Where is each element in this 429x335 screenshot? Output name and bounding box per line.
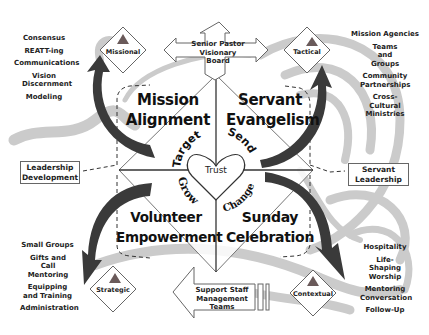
svg-text:Target: Target — [170, 128, 203, 169]
svg-text:Grow: Grow — [175, 176, 201, 208]
svg-text:Send: Send — [226, 125, 259, 155]
list-bottom-left: Small Groups Gifts and Call Mentoring Eq… — [20, 241, 75, 317]
list-bottom-right: Hospitality Life-Shaping Worship Mentori… — [355, 243, 415, 319]
leadership-diagram: Senior Pastor Visionary Board Support St… — [0, 0, 429, 335]
list-top-left: Consensus REATT-ing Communications Visio… — [14, 34, 74, 105]
verb-send: Send — [226, 125, 259, 155]
verb-target: Target — [170, 128, 203, 169]
verb-grow: Grow — [175, 176, 201, 208]
verb-change: Change — [221, 181, 256, 213]
list-top-right: Mission Agencies Teams and Groups Commun… — [350, 30, 420, 123]
svg-text:Change: Change — [221, 181, 256, 213]
